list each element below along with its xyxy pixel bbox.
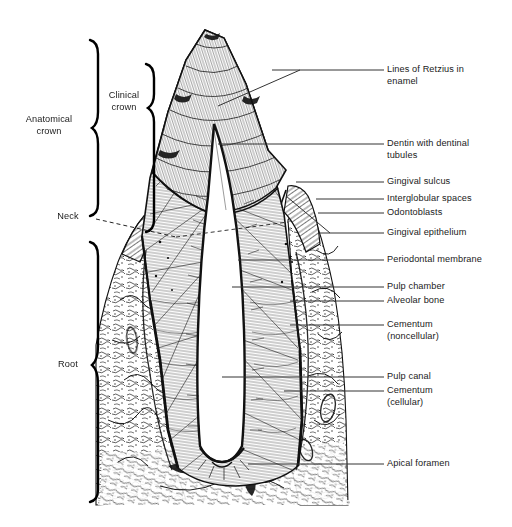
callout-label-interglobular-spaces: Interglobular spaces [387, 193, 472, 205]
callout-label-gingival-epithelium: Gingival epithelium [387, 227, 467, 239]
callout-label-periodontal-membrane: Periodontal membrane [387, 254, 482, 266]
callout-label-dentin-with-dentinal-tubules: Dentin with dentinaltubules [387, 138, 469, 161]
marker-label-neck: Neck [44, 211, 92, 223]
callout-label-alveolar-bone: Alveolar bone [387, 295, 444, 307]
callout-label-pulp-chamber: Pulp chamber [387, 281, 445, 293]
bracket-root [90, 242, 98, 502]
bracket-label-clinical-crown: Clinicalcrown [96, 90, 152, 113]
callout-label-cementum-noncellular: Cementum(noncellular) [387, 319, 439, 342]
callout-label-gingival-sulcus: Gingival sulcus [387, 176, 450, 188]
bracket-label-root: Root [46, 359, 90, 371]
callout-label-odontoblasts: Odontoblasts [387, 207, 442, 219]
callout-label-apical-foramen: Apical foramen [387, 458, 450, 470]
bracket-label-anatomical-crown: Anatomicalcrown [8, 114, 90, 137]
bracket-anatomical-crown [90, 40, 98, 216]
callout-label-pulp-canal: Pulp canal [387, 371, 431, 383]
callout-label-lines-of-retzius: Lines of Retzius inenamel [387, 64, 464, 87]
figure-canvas: Anatomicalcrown Clinicalcrown Root Neck … [0, 0, 512, 527]
callout-label-cementum-cellular: Cementum(cellular) [387, 385, 433, 408]
